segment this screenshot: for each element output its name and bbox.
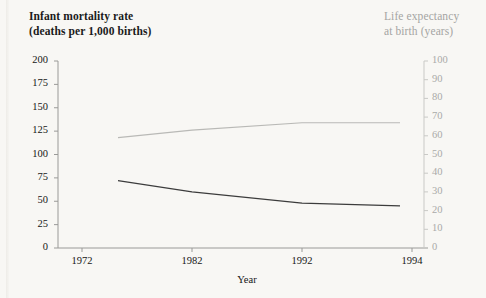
right-axis-tick-label: 80 [432,91,472,102]
left-axis-tick-label: 150 [8,101,48,112]
chart-figure: Infant mortality rate (deaths per 1,000 … [0,0,486,298]
left-axis-tick-label: 75 [8,171,48,182]
left-axis-tick-label: 175 [8,77,48,88]
series-line-life-expectancy [118,123,400,138]
left-axis-tick-label: 0 [8,241,48,252]
plot-area [0,0,486,298]
right-axis-tick-label: 70 [432,110,472,121]
right-axis-tick-label: 0 [432,241,472,252]
x-axis-tick-label: 1992 [272,255,332,266]
right-axis-tick-label: 100 [432,54,472,65]
series-line-infant-mortality [118,181,400,206]
x-axis-tick-label: 1994 [382,255,442,266]
right-axis-tick-label: 10 [432,222,472,233]
right-axis-tick-label: 60 [432,129,472,140]
right-axis-tick-label: 90 [432,73,472,84]
left-axis-tick-label: 25 [8,218,48,229]
x-axis-title: Year [187,274,307,285]
left-axis-tick-label: 100 [8,148,48,159]
right-axis-tick-label: 20 [432,204,472,215]
right-axis-tick-label: 40 [432,166,472,177]
x-axis-tick-label: 1982 [162,255,222,266]
left-axis-tick-label: 125 [8,124,48,135]
right-axis-tick-label: 30 [432,185,472,196]
x-axis-tick-label: 1972 [52,255,112,266]
left-axis-tick-label: 200 [8,54,48,65]
right-axis-tick-label: 50 [432,148,472,159]
left-axis-tick-label: 50 [8,194,48,205]
